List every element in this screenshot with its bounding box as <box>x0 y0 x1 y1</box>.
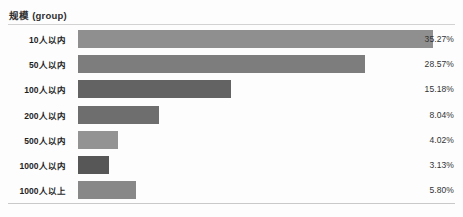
bar-track <box>78 127 455 152</box>
category-label: 1000人以内 <box>0 152 72 177</box>
bar[interactable] <box>78 131 118 149</box>
plot-area: 10人以内35.27%50人以内28.57%100人以内15.18%200人以内… <box>0 26 463 203</box>
bar[interactable] <box>78 106 159 124</box>
axis-baseline <box>8 203 455 204</box>
bar-track <box>78 51 455 76</box>
bar-row: 50人以内28.57% <box>0 51 463 76</box>
category-label: 200人以内 <box>0 102 72 127</box>
bar[interactable] <box>78 181 136 199</box>
bar[interactable] <box>78 156 109 174</box>
category-label: 50人以内 <box>0 51 72 76</box>
category-label: 1000人以上 <box>0 178 72 203</box>
category-label: 500人以内 <box>0 127 72 152</box>
bar-value-label: 5.80% <box>429 178 454 203</box>
bar-value-label: 4.02% <box>429 127 454 152</box>
category-label: 100人以内 <box>0 77 72 102</box>
bar-row: 500人以内4.02% <box>0 127 463 152</box>
title-divider <box>8 24 455 25</box>
bar-track <box>78 26 455 51</box>
bar[interactable] <box>78 30 433 48</box>
bar-track <box>78 152 455 177</box>
bar[interactable] <box>78 55 365 73</box>
bar-track <box>78 77 455 102</box>
category-label: 10人以内 <box>0 26 72 51</box>
bar-track <box>78 178 455 203</box>
bar-value-label: 3.13% <box>429 152 454 177</box>
bar-row: 10人以内35.27% <box>0 26 463 51</box>
bar-value-label: 8.04% <box>429 102 454 127</box>
bar-value-label: 15.18% <box>425 77 454 102</box>
bar-chart: 规模 (group) 10人以内35.27%50人以内28.57%100人以内1… <box>0 0 463 217</box>
bar-row: 200人以内8.04% <box>0 102 463 127</box>
bar-row: 1000人以上5.80% <box>0 178 463 203</box>
bar-row: 100人以内15.18% <box>0 77 463 102</box>
chart-title: 规模 (group) <box>9 8 67 22</box>
bar[interactable] <box>78 80 231 98</box>
bar-track <box>78 102 455 127</box>
bar-row: 1000人以内3.13% <box>0 152 463 177</box>
bar-value-label: 35.27% <box>425 26 454 51</box>
bar-value-label: 28.57% <box>425 51 454 76</box>
